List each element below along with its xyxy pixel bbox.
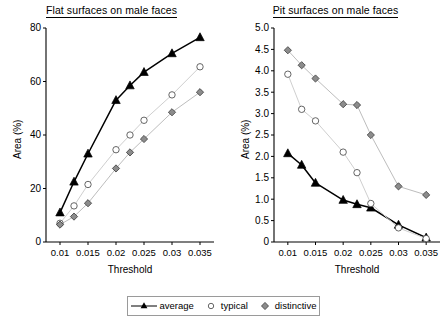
data-point-marker-circle bbox=[197, 64, 203, 70]
data-point-marker-diamond bbox=[395, 183, 402, 190]
series-line-average bbox=[288, 153, 426, 237]
data-point-marker-circle bbox=[354, 169, 360, 175]
data-point-marker-circle bbox=[285, 71, 291, 77]
y-axis-title-flat: Area (%) bbox=[12, 120, 23, 159]
legend-item-typical: typical bbox=[204, 301, 248, 311]
x-tick-label-pit: 0.03 bbox=[389, 247, 408, 258]
x-axis-title-flat: Threshold bbox=[46, 264, 214, 275]
x-tick-label-flat: 0.015 bbox=[76, 247, 100, 258]
x-tick-label-pit: 0.035 bbox=[414, 247, 438, 258]
data-point-marker-triangle bbox=[84, 149, 92, 157]
data-point-marker-diamond bbox=[367, 131, 374, 138]
data-point-marker-circle bbox=[113, 147, 119, 153]
x-tick-label-flat: 0.01 bbox=[51, 247, 70, 258]
y-tick-label-pit: 1.5 bbox=[255, 172, 269, 183]
legend-key-filled-triangle-icon bbox=[131, 301, 157, 311]
data-point-marker-triangle bbox=[56, 208, 64, 216]
plot-area-pit: 00.51.01.52.02.53.03.54.04.55.00.010.015… bbox=[224, 0, 447, 290]
data-point-marker-circle bbox=[312, 118, 318, 124]
data-point-marker-circle bbox=[127, 132, 133, 138]
y-tick-label-pit: 4.5 bbox=[255, 44, 269, 55]
y-tick-label-flat: 0 bbox=[35, 236, 41, 247]
y-tick-label-pit: 5.0 bbox=[255, 22, 269, 33]
x-tick-label-pit: 0.02 bbox=[334, 247, 353, 258]
chart-panel-flat-surfaces: Flat surfaces on male faces 0204060800.0… bbox=[0, 0, 223, 290]
x-tick-label-pit: 0.015 bbox=[304, 247, 328, 258]
data-point-marker-triangle bbox=[168, 49, 176, 57]
y-tick-label-pit: 3.5 bbox=[255, 87, 269, 98]
data-point-marker-circle bbox=[340, 149, 346, 155]
y-tick-label-flat: 80 bbox=[30, 22, 42, 33]
series-line-average bbox=[60, 37, 200, 212]
y-tick-label-pit: 0 bbox=[263, 236, 269, 247]
y-tick-label-flat: 20 bbox=[30, 183, 42, 194]
figure-container: Flat surfaces on male faces 0204060800.0… bbox=[0, 0, 447, 324]
legend-key-gray-diamond-icon bbox=[258, 301, 272, 311]
data-point-marker-triangle bbox=[70, 177, 78, 185]
data-point-marker-circle bbox=[71, 203, 77, 209]
data-point-marker-diamond bbox=[196, 89, 203, 96]
series-line-distinctive bbox=[60, 92, 200, 224]
data-point-marker-circle bbox=[395, 225, 401, 231]
data-point-marker-circle bbox=[85, 181, 91, 187]
data-point-marker-circle bbox=[141, 117, 147, 123]
data-point-marker-triangle bbox=[284, 149, 292, 157]
chart-panel-pit-surfaces: Pit surfaces on male faces 00.51.01.52.0… bbox=[224, 0, 447, 290]
x-axis-title-pit: Threshold bbox=[274, 264, 440, 275]
data-point-marker-diamond bbox=[423, 191, 430, 198]
y-tick-label-flat: 40 bbox=[30, 129, 42, 140]
legend-key-open-circle-icon bbox=[204, 301, 218, 311]
data-point-marker-triangle bbox=[140, 68, 148, 76]
y-tick-label-pit: 2.0 bbox=[255, 151, 269, 162]
x-tick-label-flat: 0.02 bbox=[107, 247, 126, 258]
y-tick-label-pit: 3.0 bbox=[255, 108, 269, 119]
data-point-marker-triangle bbox=[196, 33, 204, 41]
legend-item-distinctive: distinctive bbox=[258, 301, 317, 311]
y-tick-label-pit: 4.0 bbox=[255, 65, 269, 76]
x-tick-label-pit: 0.025 bbox=[359, 247, 383, 258]
data-point-marker-diamond bbox=[353, 101, 360, 108]
legend-label-distinctive: distinctive bbox=[275, 301, 317, 311]
y-tick-label-flat: 60 bbox=[30, 76, 42, 87]
chart-legend: average typical distinctive bbox=[127, 296, 320, 316]
y-tick-label-pit: 0.5 bbox=[255, 215, 269, 226]
x-tick-label-flat: 0.035 bbox=[188, 247, 212, 258]
data-point-marker-circle bbox=[169, 92, 175, 98]
data-point-marker-triangle bbox=[339, 195, 347, 203]
y-axis-title-pit: Area (%) bbox=[240, 120, 251, 159]
plot-area-flat: 0204060800.010.0150.020.0250.030.035 bbox=[0, 0, 223, 290]
y-tick-label-pit: 1.0 bbox=[255, 194, 269, 205]
y-tick-label-pit: 2.5 bbox=[255, 129, 269, 140]
x-tick-label-flat: 0.025 bbox=[132, 247, 156, 258]
legend-label-typical: typical bbox=[221, 301, 248, 311]
data-point-marker-circle bbox=[298, 106, 304, 112]
legend-label-average: average bbox=[160, 301, 194, 311]
data-point-marker-circle bbox=[368, 200, 374, 206]
x-tick-label-flat: 0.03 bbox=[163, 247, 182, 258]
series-line-typical bbox=[60, 67, 200, 223]
series-line-typical bbox=[288, 74, 426, 238]
legend-item-average: average bbox=[131, 301, 194, 311]
x-tick-label-pit: 0.01 bbox=[279, 247, 298, 258]
data-point-marker-circle bbox=[423, 235, 429, 241]
